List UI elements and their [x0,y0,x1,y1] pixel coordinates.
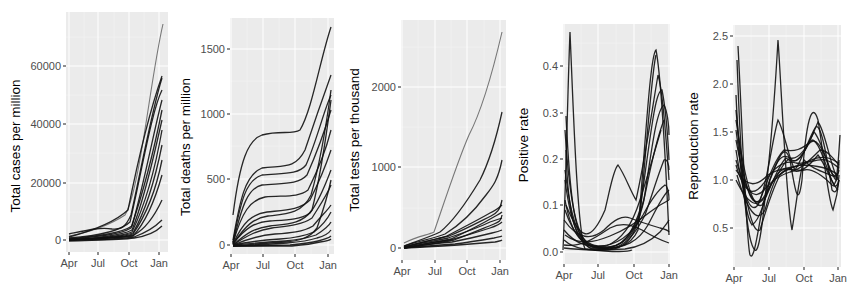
y-tick-label: 500 [207,173,225,185]
y-tick-label: 0.0 [543,246,558,258]
x-tick-label: Oct [286,259,303,271]
y-tick-label: 2.0 [713,78,728,90]
x-tick-label: Apr [393,265,410,277]
x-axis: Apr Jul Oct Jan [555,264,677,281]
panel-total-cases: 0 20000 40000 60000 Total cases per mill… [8,12,168,269]
x-tick-label: Oct [795,272,812,284]
x-tick-label: Jan [491,265,509,277]
figure: 0 20000 40000 60000 Total cases per mill… [0,0,857,297]
y-axis: 0 500 1000 1500 Total deaths per million [178,43,230,251]
y-tick-label: 40000 [30,118,61,130]
x-axis: Apr Jul Oct Jan [725,267,846,284]
y-tick-label: 0.2 [543,153,558,165]
x-tick-label: Jan [150,257,168,269]
x-tick-label: Oct [458,265,475,277]
y-axis: 0.5 1.0 1.5 2.0 2.5 Reproduction rate [686,30,733,234]
x-tick-label: Apr [725,272,742,284]
panel-reproduction-rate: 0.5 1.0 1.5 2.0 2.5 Reproduction rate Ap… [686,25,847,284]
x-tick-label: Apr [555,269,572,281]
x-tick-label: Jan [319,259,337,271]
y-axis-label: Total deaths per million [178,78,193,216]
y-tick-label: 0.4 [543,60,558,72]
x-tick-label: Jan [829,272,847,284]
y-tick-label: 2.5 [713,30,728,42]
x-axis: Apr Jul Oct Jan [393,260,508,277]
y-axis-label: Total tests per thousand [347,68,362,211]
y-tick-label: 20000 [30,177,61,189]
x-tick-label: Jul [591,269,605,281]
panel-positive-rate: 0.0 0.1 0.2 0.3 0.4 Positive rate Apr Ju… [516,24,678,281]
y-axis: 0.0 0.1 0.2 0.3 0.4 Positive rate [516,60,563,258]
x-axis: Apr Jul Oct Jan [222,254,336,271]
y-tick-label: 1500 [201,43,225,55]
y-axis-label: Total cases per million [8,80,23,213]
y-tick-label: 60000 [30,60,61,72]
x-axis: Apr Jul Oct Jan [60,252,167,269]
x-tick-label: Jan [660,269,678,281]
x-tick-label: Jul [256,259,270,271]
y-tick-label: 1.5 [713,126,728,138]
x-tick-label: Jul [91,257,105,269]
x-tick-label: Apr [60,257,77,269]
panel-total-deaths: 0 500 1000 1500 Total deaths per million… [178,18,337,271]
y-tick-label: 0 [55,234,61,246]
x-tick-label: Apr [222,259,239,271]
y-tick-label: 1.0 [713,174,728,186]
x-tick-label: Oct [625,269,642,281]
y-tick-label: 0 [390,242,396,254]
y-axis-label: Reproduction rate [686,92,701,199]
y-axis: 0 1000 2000 Total tests per thousand [347,68,401,254]
panel-total-tests: 0 1000 2000 Total tests per thousand Apr… [347,20,509,277]
x-tick-label: Oct [120,257,137,269]
y-tick-label: 0.3 [543,107,558,119]
x-tick-label: Jul [428,265,442,277]
y-axis-label: Positive rate [516,108,531,182]
y-axis: 0 20000 40000 60000 Total cases per mill… [8,60,66,246]
y-tick-label: 1000 [372,161,396,173]
y-tick-label: 0 [219,239,225,251]
y-tick-label: 1000 [201,108,225,120]
y-tick-label: 0.5 [713,222,728,234]
y-tick-label: 0.1 [543,199,558,211]
x-tick-label: Jul [762,272,776,284]
y-tick-label: 2000 [372,81,396,93]
